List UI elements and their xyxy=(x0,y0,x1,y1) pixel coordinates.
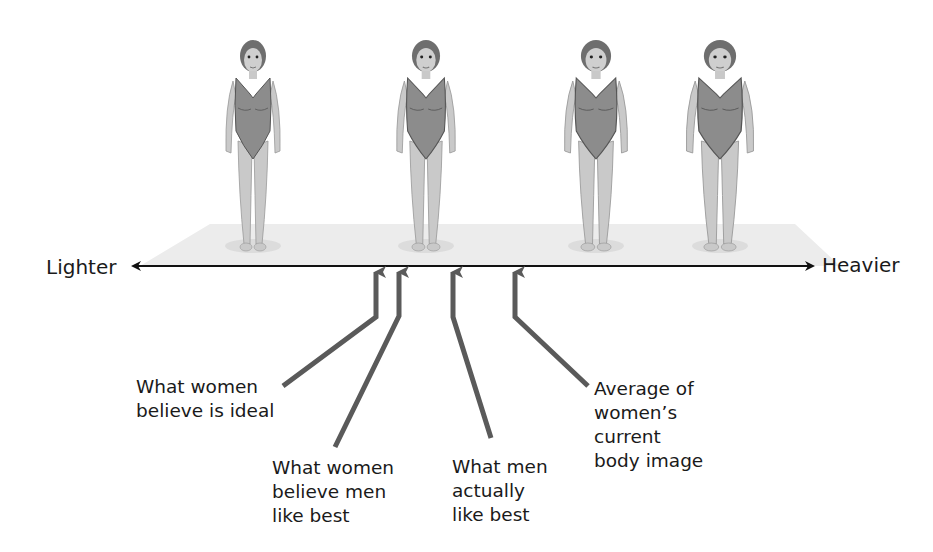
pointer-men-actually-like xyxy=(453,272,491,438)
figure-4-heaviest xyxy=(686,40,753,251)
pointer-women-current xyxy=(515,272,588,386)
axis-label-lighter: Lighter xyxy=(46,255,116,279)
annotation-women-current: Average of women’s current body image xyxy=(594,377,703,473)
pointer-women-ideal xyxy=(283,272,376,386)
pointer-women-believe-men-like xyxy=(335,272,399,447)
annotation-women-ideal: What women believe is ideal xyxy=(136,375,274,423)
annotation-men-actually-like: What men actually like best xyxy=(452,455,548,527)
figure-2 xyxy=(397,40,456,251)
axis-label-heavier: Heavier xyxy=(822,253,900,277)
figure-3 xyxy=(565,40,628,251)
figure-1-thinnest xyxy=(226,40,280,251)
annotation-women-believe-men-like: What women believe men like best xyxy=(272,456,394,528)
